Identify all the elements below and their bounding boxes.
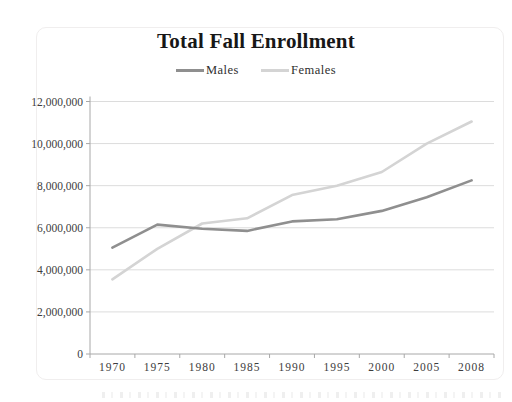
y-axis-tick-label: 8,000,000	[37, 180, 83, 193]
x-axis-tick-label: 1990	[279, 361, 306, 373]
y-axis-tick-label: 12,000,000	[31, 96, 83, 109]
enrollment-chart: Total Fall Enrollment Males Females 02,0…	[0, 0, 512, 402]
y-axis-tick-label: 4,000,000	[37, 264, 83, 277]
x-axis-tick-label: 1975	[144, 361, 171, 373]
x-axis-tick-label: 2008	[458, 361, 485, 373]
line-chart-plot-area: 02,000,0004,000,0006,000,0008,000,00010,…	[0, 0, 512, 402]
cutoff-caption-artifact	[102, 392, 506, 398]
x-axis-tick-label: 2000	[368, 361, 395, 373]
x-axis-tick-label: 1995	[323, 361, 350, 373]
x-axis-tick-label: 1985	[234, 361, 261, 373]
x-axis-tick-label: 2005	[413, 361, 440, 373]
males-series-line	[112, 180, 471, 247]
y-axis-tick-label: 6,000,000	[37, 222, 83, 235]
y-axis-tick-label: 2,000,000	[37, 306, 83, 319]
x-axis-tick-label: 1980	[189, 361, 216, 373]
y-axis-tick-label: 10,000,000	[31, 138, 83, 151]
y-axis-tick-label: 0	[77, 348, 83, 360]
x-axis-tick-label: 1970	[99, 361, 126, 373]
